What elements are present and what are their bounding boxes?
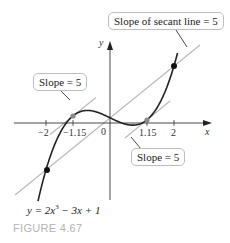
tick-label-neg2: −2	[38, 127, 49, 138]
secant-slope-callout: Slope of secant line = 5	[108, 12, 224, 30]
y-axis-label: y	[99, 37, 103, 48]
y-axis-arrow-icon	[107, 41, 113, 50]
tick-label-2: 2	[171, 127, 176, 138]
tick-label-zero: 0	[101, 126, 106, 137]
tick-label-1-15: 1.15	[139, 127, 157, 138]
tangent-point-left	[70, 113, 75, 118]
secant-point-right	[171, 63, 177, 69]
tangent-left-slope-callout: Slope = 5	[33, 73, 87, 91]
tangent-right-slope-callout: Slope = 5	[131, 148, 185, 166]
figure-caption: FIGURE 4.67	[13, 222, 82, 234]
equation-label: y = 2x3 − 3x + 1	[27, 203, 100, 216]
secant-point-left	[44, 167, 50, 173]
tick-label-neg1-15: −1.15	[63, 127, 86, 138]
secant-callout-leader	[176, 30, 187, 47]
tangent-left-callout-leader	[61, 91, 70, 100]
x-axis-label: x	[205, 126, 209, 137]
tangent-point-right	[144, 117, 149, 122]
